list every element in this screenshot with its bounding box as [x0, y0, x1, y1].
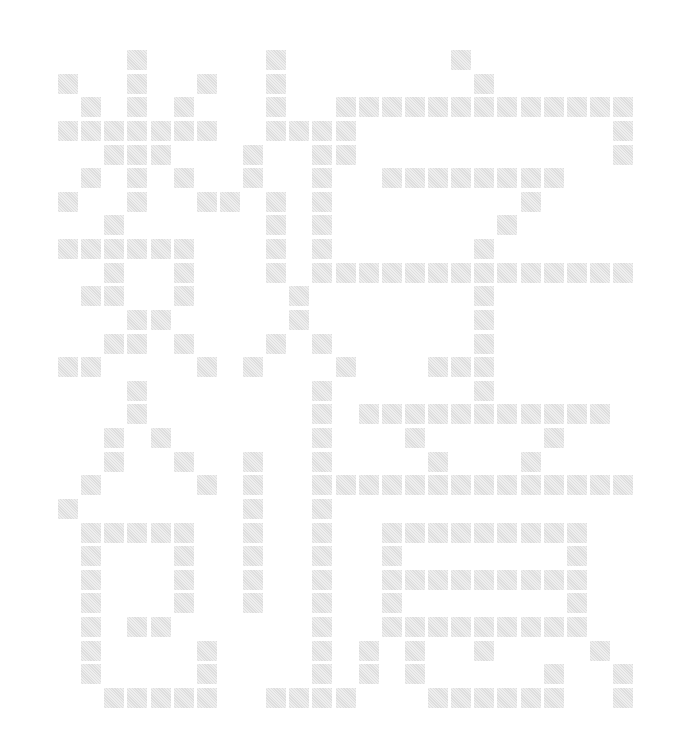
pixel-cell	[336, 357, 356, 377]
pixel-cell	[544, 523, 564, 543]
pixel-cell	[197, 475, 217, 495]
pixel-cell	[266, 215, 286, 235]
pixel-cell	[151, 145, 171, 165]
pixel-cell	[497, 523, 517, 543]
pixel-cell	[312, 499, 332, 519]
pixel-cell	[405, 168, 425, 188]
pixel-cell	[312, 452, 332, 472]
pixel-cell	[151, 523, 171, 543]
pixel-cell	[474, 168, 494, 188]
pixel-cell	[567, 523, 587, 543]
pixel-cell	[521, 168, 541, 188]
pixel-cell	[127, 168, 147, 188]
pixel-cell	[104, 523, 124, 543]
pixel-cell	[81, 357, 101, 377]
pixel-cell	[405, 570, 425, 590]
pixel-cell	[127, 310, 147, 330]
pixel-cell	[544, 688, 564, 708]
pixel-cell	[289, 310, 309, 330]
pixel-cell	[451, 357, 471, 377]
pixel-cell	[197, 192, 217, 212]
pixel-cell	[243, 523, 263, 543]
pixel-cell	[81, 664, 101, 684]
pixel-cell	[405, 428, 425, 448]
pixel-cell	[243, 145, 263, 165]
pixel-cell	[474, 523, 494, 543]
pixel-cell	[474, 310, 494, 330]
pixel-cell	[312, 617, 332, 637]
pixel-cell	[151, 310, 171, 330]
pixel-cell	[544, 97, 564, 117]
pixel-cell	[613, 475, 633, 495]
pixel-cell	[474, 239, 494, 259]
pixel-cell	[405, 617, 425, 637]
pixel-cell	[590, 404, 610, 424]
pixel-cell	[474, 263, 494, 283]
pixel-cell	[174, 570, 194, 590]
pixel-cell	[613, 97, 633, 117]
pixel-cell	[474, 688, 494, 708]
pixel-cell	[151, 428, 171, 448]
pixel-cell	[359, 97, 379, 117]
pixel-cell	[174, 523, 194, 543]
pixel-cell	[590, 263, 610, 283]
pixel-cell	[266, 121, 286, 141]
pixel-cell	[197, 121, 217, 141]
pixel-cell	[174, 334, 194, 354]
pixel-cell	[405, 664, 425, 684]
pixel-cell	[567, 617, 587, 637]
pixel-cell	[451, 50, 471, 70]
pixel-cell	[359, 641, 379, 661]
pixel-cell	[451, 523, 471, 543]
pixel-cell	[336, 263, 356, 283]
pixel-cell	[81, 121, 101, 141]
pixel-cell	[382, 168, 402, 188]
pixel-cell	[104, 286, 124, 306]
pixel-cell	[312, 145, 332, 165]
pixel-cell	[497, 570, 517, 590]
pixel-cell	[81, 97, 101, 117]
pixel-cell	[127, 192, 147, 212]
pixel-cell	[312, 570, 332, 590]
pixel-cell	[428, 357, 448, 377]
pixel-cell	[544, 617, 564, 637]
pixel-cell	[405, 523, 425, 543]
pixel-cell	[174, 546, 194, 566]
pixel-cell	[521, 452, 541, 472]
pixel-cell	[127, 239, 147, 259]
pixel-cell	[474, 357, 494, 377]
pixel-cell	[243, 475, 263, 495]
pixel-cell	[359, 404, 379, 424]
pixel-cell	[312, 192, 332, 212]
pixel-cell	[613, 688, 633, 708]
pixel-cell	[266, 239, 286, 259]
pixel-cell	[497, 404, 517, 424]
pixel-cell	[243, 570, 263, 590]
pixel-cell	[81, 475, 101, 495]
pixel-cell	[174, 286, 194, 306]
pixel-cell	[336, 475, 356, 495]
pixel-cell	[127, 121, 147, 141]
pixel-cell	[266, 688, 286, 708]
pixel-cell	[497, 97, 517, 117]
pixel-cell	[174, 168, 194, 188]
pixel-cell	[289, 688, 309, 708]
pixel-cell	[104, 688, 124, 708]
pixel-cell	[312, 381, 332, 401]
pixel-cell	[151, 617, 171, 637]
pixel-cell	[428, 168, 448, 188]
pixel-cell	[474, 97, 494, 117]
pixel-cell	[382, 475, 402, 495]
pixel-cell	[613, 263, 633, 283]
pixel-cell	[174, 688, 194, 708]
pixel-cell	[312, 428, 332, 448]
pixel-cell	[428, 97, 448, 117]
pixel-cell	[174, 452, 194, 472]
pixel-cell	[81, 641, 101, 661]
pixel-cell	[197, 357, 217, 377]
pixel-cell	[428, 452, 448, 472]
pixel-cell	[382, 404, 402, 424]
pixel-cell	[81, 570, 101, 590]
pixel-cell	[474, 381, 494, 401]
pixel-cell	[567, 546, 587, 566]
